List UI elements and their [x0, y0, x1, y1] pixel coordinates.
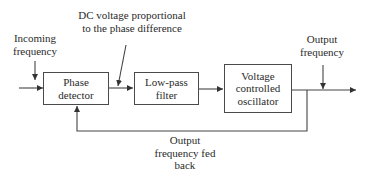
feedback-label: Output frequency fed back: [155, 134, 216, 172]
dc-voltage-label: DC voltage proportional to the phase dif…: [78, 9, 186, 34]
phase-detector-label-line1: Phase: [63, 76, 89, 89]
low-pass-filter-label-line2: filter: [156, 89, 177, 102]
output-frequency-label: Output frequency: [300, 33, 344, 58]
incoming-frequency-label: Incoming frequency: [13, 32, 57, 57]
dc-voltage-pointer-arrow: [118, 45, 126, 86]
phase-detector-label-line2: detector: [58, 89, 93, 102]
phase-detector-block: Phase detector: [43, 72, 109, 105]
low-pass-filter-block: Low-pass filter: [134, 72, 199, 105]
pll-block-diagram: Phase detector Low-pass filter Voltage c…: [0, 0, 369, 179]
low-pass-filter-label-line1: Low-pass: [145, 76, 188, 89]
vco-label-line2: controlled: [236, 82, 281, 95]
vco-block: Voltage controlled oscillator: [224, 64, 292, 113]
vco-label-line1: Voltage: [241, 70, 274, 83]
vco-label-line3: oscillator: [238, 95, 279, 108]
